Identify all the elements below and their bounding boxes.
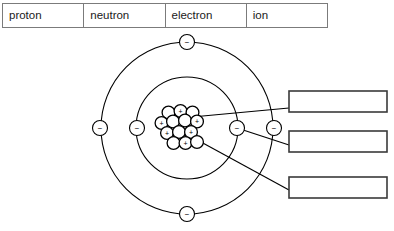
electron-outer-bottom-symbol: − — [185, 210, 190, 219]
answer-box-3[interactable] — [289, 177, 387, 198]
nucleus-particle-proton-3-symbol: + — [159, 120, 163, 127]
answer-box-2[interactable] — [289, 131, 387, 152]
worksheet-root: proton neutron electron ion ++++++ −−−−−… — [0, 0, 394, 231]
electron-outer-right-symbol: − — [272, 124, 277, 133]
nucleus-particle-proton-11-symbol: + — [183, 140, 187, 147]
leader-line-to-box-3 — [190, 136, 289, 190]
nucleus-particle-neutron-5 — [179, 114, 192, 127]
electron-inner-right-symbol: − — [235, 124, 240, 133]
atom-structure-diagram: ++++++ −−−−−− — [0, 0, 394, 231]
nucleus-particle-proton-9-symbol: + — [189, 129, 193, 136]
electron-outer-left-symbol: − — [98, 124, 103, 133]
nucleus-particle-proton-7-symbol: + — [165, 130, 169, 137]
answer-boxes-group — [289, 91, 387, 198]
nucleus-particle-proton-6-symbol: + — [195, 118, 199, 125]
nucleus-particle-neutron-12 — [191, 136, 204, 149]
electron-outer-top-symbol: − — [185, 38, 190, 47]
electron-inner-left-symbol: − — [135, 124, 140, 133]
nucleus-particle-neutron-10 — [167, 137, 180, 150]
leader-line-to-box-1 — [192, 108, 289, 117]
nucleus-cluster: ++++++ — [155, 105, 203, 150]
nucleus-particle-proton-1-symbol: + — [178, 108, 182, 115]
answer-box-1[interactable] — [289, 91, 387, 112]
